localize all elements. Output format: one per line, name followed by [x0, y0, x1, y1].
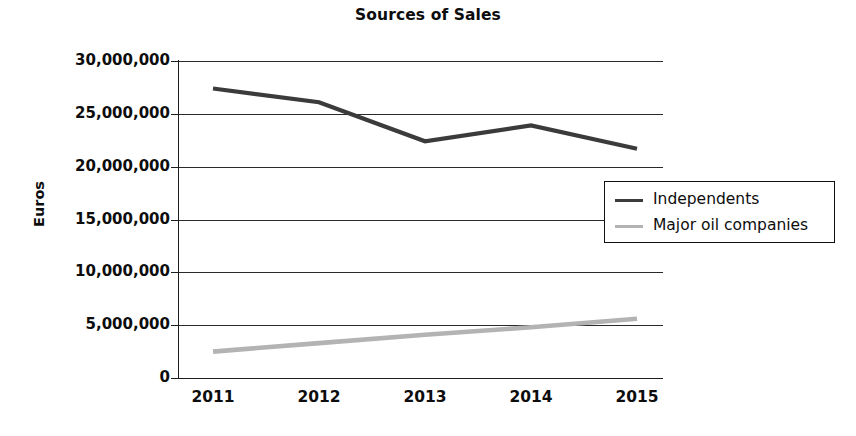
legend-item-independents: Independents: [615, 187, 834, 213]
y-axis-tick: [171, 272, 178, 273]
series-line-independents: [213, 89, 637, 149]
sources-of-sales-chart: Sources of Sales Euros 05,000,00010,000,…: [0, 0, 856, 436]
legend-swatch-icon: [615, 225, 643, 228]
chart-legend: Independents Major oil companies: [604, 181, 835, 243]
y-axis-tick: [171, 325, 178, 326]
y-axis-tick: [171, 167, 178, 168]
y-axis-tick: [171, 378, 178, 379]
legend-swatch-icon: [615, 199, 643, 202]
legend-item-major-oil-companies: Major oil companies: [615, 213, 834, 239]
legend-item-label: Major oil companies: [653, 218, 808, 234]
y-axis-tick: [171, 220, 178, 221]
legend-item-label: Independents: [653, 192, 759, 208]
y-axis-tick: [171, 114, 178, 115]
series-line-major-oil-companies: [213, 319, 637, 352]
y-axis-tick: [171, 61, 178, 62]
